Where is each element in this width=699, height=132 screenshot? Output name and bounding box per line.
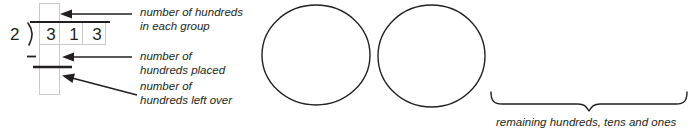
brace-caption: remaining hundreds, tens and ones [496, 115, 676, 129]
quotient-box[interactable] [40, 4, 60, 23]
dividend-digit-ones: 3 [86, 26, 108, 43]
callout-remainder-line1: number of [140, 80, 232, 94]
callout-quotient-line1: number of hundreds [140, 6, 243, 20]
callout-product: number of hundreds placed [140, 50, 225, 77]
arrow-diagonal-icon-remainder [62, 74, 137, 96]
group-circles [262, 5, 485, 107]
group-circle-2[interactable] [378, 5, 485, 107]
diagram-vector-layer [0, 0, 699, 132]
place-value-column [40, 4, 60, 95]
dividend-digit-hundreds: 3 [40, 26, 62, 43]
callout-quotient-line2: in each group [140, 20, 243, 34]
group-circle-1[interactable] [262, 5, 370, 105]
callout-product-line1: number of [140, 50, 225, 64]
product-box[interactable] [40, 45, 60, 67]
dividend-digit-tens: 1 [63, 26, 85, 43]
callout-remainder: number of hundreds left over [140, 80, 232, 107]
arrow-left-icon-quotient [60, 10, 132, 19]
callout-product-line2: hundreds placed [140, 64, 225, 78]
callout-remainder-line2: hundreds left over [140, 94, 232, 108]
worksheet-canvas: 2 3 1 3 number of hundreds in each group… [0, 0, 699, 132]
callout-quotient: number of hundreds in each group [140, 6, 243, 33]
remainder-box[interactable] [40, 67, 60, 95]
arrow-left-icon-product [62, 53, 132, 62]
curly-brace-icon [491, 92, 687, 111]
divisor-value: 2 [10, 26, 19, 43]
